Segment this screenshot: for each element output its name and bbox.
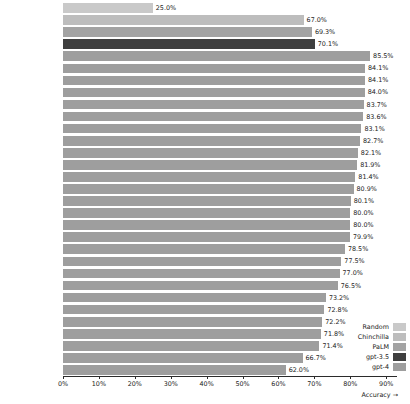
legend-swatch bbox=[393, 323, 406, 331]
bar-row: Arabic80.0% bbox=[63, 208, 397, 218]
bar bbox=[63, 112, 363, 122]
bar-row: Indonesian83.1% bbox=[63, 124, 397, 134]
bar-value-label: 72.8% bbox=[324, 306, 347, 312]
x-axis-line bbox=[63, 376, 397, 377]
bar-row: Bengali73.2% bbox=[63, 293, 397, 303]
legend-swatch bbox=[393, 343, 406, 351]
bar-row: PaLM-English69.3% bbox=[63, 27, 397, 37]
bar bbox=[63, 353, 303, 363]
bar-row: Polish82.1% bbox=[63, 148, 397, 158]
legend-swatch bbox=[393, 333, 406, 341]
x-tick-label: 50% bbox=[235, 381, 249, 387]
bar-row: Spanish84.0% bbox=[63, 88, 397, 98]
bar bbox=[63, 76, 365, 86]
bar-row: Italian84.1% bbox=[63, 64, 397, 74]
bar-row: Icelandic76.5% bbox=[63, 281, 397, 291]
x-tick-label: 40% bbox=[200, 381, 214, 387]
bar-row: Swahili78.5% bbox=[63, 244, 397, 254]
legend-item: Chinchilla bbox=[314, 332, 406, 342]
bar bbox=[63, 27, 312, 37]
bar bbox=[63, 160, 357, 170]
bar-value-label: 78.5% bbox=[345, 246, 368, 252]
bar-value-label: 84.1% bbox=[365, 65, 388, 71]
bar bbox=[63, 232, 350, 242]
bar-row: Greek81.4% bbox=[63, 172, 397, 182]
bar-row: Chinchilla-English67.0% bbox=[63, 15, 397, 25]
x-tick-label: 0% bbox=[58, 381, 68, 387]
x-tick-label: 70% bbox=[307, 381, 321, 387]
x-tick bbox=[278, 376, 279, 379]
bar-value-label: 77.0% bbox=[340, 270, 363, 276]
bar-value-label: 80.1% bbox=[351, 198, 374, 204]
bar-value-label: 70.1% bbox=[315, 41, 338, 47]
legend-label: Random bbox=[363, 324, 393, 330]
x-tick bbox=[99, 376, 100, 379]
x-tick-label: 90% bbox=[379, 381, 393, 387]
bar bbox=[63, 184, 354, 194]
bar-value-label: 82.1% bbox=[358, 150, 381, 156]
bar-value-label: 83.1% bbox=[361, 125, 384, 131]
x-tick bbox=[135, 376, 136, 379]
legend-swatch bbox=[393, 353, 406, 361]
bar-value-label: 76.5% bbox=[338, 282, 361, 288]
bar-row: Mandarin80.1% bbox=[63, 196, 397, 206]
bar bbox=[63, 329, 321, 339]
bar bbox=[63, 244, 345, 254]
bar bbox=[63, 148, 358, 158]
bar-value-label: 81.9% bbox=[357, 162, 380, 168]
x-tick-label: 30% bbox=[164, 381, 178, 387]
bar bbox=[63, 220, 350, 230]
bar-row: Russian82.7% bbox=[63, 136, 397, 146]
bar-value-label: 73.2% bbox=[326, 294, 349, 300]
bar-value-label: 83.6% bbox=[363, 113, 386, 119]
bar-value-label: 84.1% bbox=[365, 77, 388, 83]
bar bbox=[63, 88, 365, 98]
x-tick bbox=[243, 376, 244, 379]
chart-legend: RandomChinchillaPaLMgpt-3.5gpt-4 bbox=[314, 322, 406, 372]
legend-label: Chinchilla bbox=[358, 334, 393, 340]
bar-value-label: 67.0% bbox=[304, 17, 327, 23]
x-tick bbox=[350, 376, 351, 379]
legend-swatch bbox=[393, 363, 406, 371]
bar-row: GPT-3.5-English70.1% bbox=[63, 39, 397, 49]
bar-row: Ukranian81.9% bbox=[63, 160, 397, 170]
bar-value-label: 84.0% bbox=[365, 89, 388, 95]
bar-row: Latvian80.9% bbox=[63, 184, 397, 194]
bar-value-label: 77.5% bbox=[341, 258, 364, 264]
bar bbox=[63, 3, 153, 13]
x-tick bbox=[314, 376, 315, 379]
x-tick bbox=[207, 376, 208, 379]
x-tick-label: 80% bbox=[343, 381, 357, 387]
bar-value-label: 83.7% bbox=[364, 101, 387, 107]
bar-value-label: 62.0% bbox=[286, 367, 309, 373]
legend-item: gpt-4 bbox=[314, 362, 406, 372]
bar bbox=[63, 269, 340, 279]
legend-label: PaLM bbox=[372, 344, 393, 350]
bar-row: Japanese79.9% bbox=[63, 232, 397, 242]
bar bbox=[63, 15, 304, 25]
accuracy-bar-chart: Random guessing25.0%Chinchilla-English67… bbox=[0, 0, 410, 404]
legend-item: PaLM bbox=[314, 342, 406, 352]
bar bbox=[63, 317, 322, 327]
bar bbox=[63, 257, 341, 267]
bar bbox=[63, 196, 351, 206]
bar-row: GPT-4 English85.5% bbox=[63, 51, 397, 61]
x-tick bbox=[171, 376, 172, 379]
bar bbox=[63, 305, 324, 315]
bar bbox=[63, 100, 364, 110]
bar-value-label: 80.0% bbox=[350, 222, 373, 228]
bar-row: Welsh77.5% bbox=[63, 257, 397, 267]
bar-row: French83.6% bbox=[63, 112, 397, 122]
legend-label: gpt-4 bbox=[372, 364, 393, 370]
bar bbox=[63, 341, 319, 351]
bar-value-label: 82.7% bbox=[360, 138, 383, 144]
bar-value-label: 69.3% bbox=[312, 29, 335, 35]
x-tick bbox=[63, 376, 64, 379]
bar bbox=[63, 281, 338, 291]
bar bbox=[63, 51, 370, 61]
bar-value-label: 85.5% bbox=[370, 53, 393, 59]
bar-value-label: 25.0% bbox=[153, 5, 176, 11]
bar bbox=[63, 136, 360, 146]
bar-value-label: 80.0% bbox=[350, 210, 373, 216]
bar bbox=[63, 124, 361, 134]
